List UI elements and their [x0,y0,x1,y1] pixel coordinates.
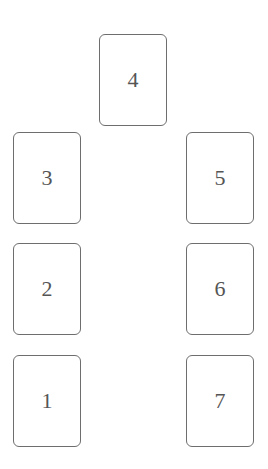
card-position-7: 7 [186,355,254,447]
card-position-3: 3 [13,132,81,224]
card-number-label: 3 [42,167,53,189]
card-number-label: 7 [215,390,226,412]
card-position-1: 1 [13,355,81,447]
card-position-2: 2 [13,243,81,335]
card-position-4: 4 [99,34,167,126]
card-spread-diagram: 1 2 3 4 5 6 7 [0,0,268,469]
card-position-5: 5 [186,132,254,224]
card-number-label: 1 [42,390,53,412]
card-number-label: 4 [128,69,139,91]
card-position-6: 6 [186,243,254,335]
card-number-label: 2 [42,278,53,300]
card-number-label: 5 [215,167,226,189]
card-number-label: 6 [215,278,226,300]
